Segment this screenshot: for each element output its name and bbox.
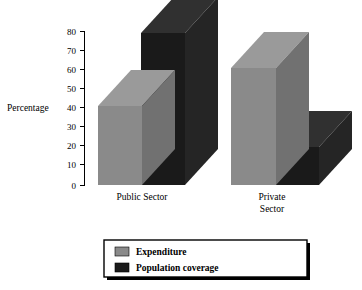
legend-label-expenditure: Expenditure xyxy=(136,247,187,257)
category-label-private: Private xyxy=(259,192,286,202)
category-label-public-sector: Public Sector xyxy=(117,192,169,202)
y-tick-label-30: 30 xyxy=(67,122,77,132)
y-tick-label-20: 20 xyxy=(67,141,77,151)
x-axis-labels: Public Sector Private Sector xyxy=(117,192,286,214)
legend-item-expenditure[interactable]: Expenditure xyxy=(115,247,187,257)
y-tick-label-60: 60 xyxy=(67,65,77,75)
y-axis-group: 80 70 60 50 40 30 20 10 0 Percentage xyxy=(7,27,85,191)
y-tick-label-10: 10 xyxy=(67,160,77,170)
legend-swatch-population-coverage xyxy=(115,263,129,272)
bar-side-face xyxy=(185,0,218,185)
legend-label-population-coverage: Population coverage xyxy=(136,263,219,273)
chart-container: 80 70 60 50 40 30 20 10 0 Percentage xyxy=(0,0,362,290)
y-axis-title: Percentage xyxy=(7,103,49,113)
y-tick-label-70: 70 xyxy=(67,46,77,56)
legend-swatch-expenditure xyxy=(115,247,129,256)
y-tick-label-0: 0 xyxy=(72,181,77,191)
y-tick-label-50: 50 xyxy=(67,84,77,94)
y-tick-label-80: 80 xyxy=(67,27,77,37)
category-label-sector: Sector xyxy=(260,204,285,214)
bar-chart-3d: 80 70 60 50 40 30 20 10 0 Percentage xyxy=(0,0,362,290)
y-tick-label-40: 40 xyxy=(67,103,77,113)
bar-front-face xyxy=(231,68,276,185)
bar-front-face xyxy=(98,106,142,185)
legend: Expenditure Population coverage xyxy=(104,240,310,280)
